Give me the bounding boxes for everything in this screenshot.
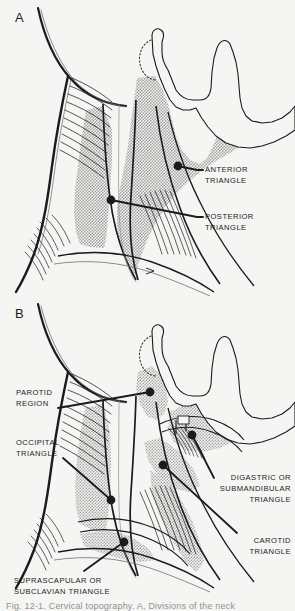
anterior-triangle-label-line2: TRIANGLE	[205, 176, 247, 185]
hyoid-bone	[178, 416, 189, 424]
carotid-triangle-label-line1: CAROTID	[254, 536, 291, 545]
suprascapular-triangle-label-line2: SUBCLAVIAN TRIANGLE	[14, 587, 110, 596]
occipital-triangle-label-line1: OCCIPITAL	[16, 438, 60, 447]
occipital-triangle-dot	[107, 496, 116, 505]
panel-a-letter: A	[15, 10, 24, 25]
posterior-triangle-label-line1: POSTERIOR	[205, 212, 254, 221]
suprascapular-triangle-dot	[120, 538, 129, 547]
digastric-triangle-label-line3: TRIANGLE	[249, 495, 291, 504]
panel-b-letter: B	[15, 306, 24, 321]
parotid-region-dot	[146, 388, 155, 397]
parotid-region-label-line1: PAROTID	[16, 388, 52, 397]
posterior-triangle-dot	[107, 196, 116, 205]
figure-caption: Fig. 12-1. Cervical topography. A, Divis…	[6, 601, 235, 611]
parotid-region-label-line2: REGION	[16, 399, 49, 408]
posterior-triangle-label-line2: TRIANGLE	[205, 223, 247, 232]
digastric-triangle-dot	[188, 431, 197, 440]
anterior-triangle-dot	[174, 162, 183, 171]
suprascapular-triangle-label-line1: SUPRASCAPULAR OR	[14, 576, 102, 585]
carotid-triangle-label-line2: TRIANGLE	[249, 547, 291, 556]
digastric-triangle-label-line2: SUBMANDIBULAR	[220, 484, 291, 493]
neck-triangles-figure: A ANTERIOR TRIANGLE POSTERIOR TRIANGLE	[0, 0, 295, 611]
anterior-triangle-label-line1: ANTERIOR	[205, 165, 248, 174]
occipital-triangle-label-line2: TRIANGLE	[16, 449, 58, 458]
carotid-triangle-dot	[159, 461, 168, 470]
digastric-triangle-label-line1: DIGASTRIC OR	[231, 473, 291, 482]
